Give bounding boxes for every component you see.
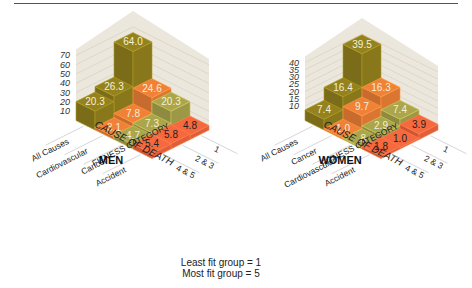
z-tick-label: 70: [60, 50, 70, 60]
value-label: 39.5: [352, 39, 372, 50]
chart-title: MEN: [99, 154, 124, 166]
fitness-label: 1: [213, 144, 222, 155]
value-label: 20.3: [85, 96, 105, 107]
z-tick-label: 10: [60, 106, 70, 116]
fitness-label: 4 & 5: [175, 163, 197, 181]
fitness-label: 2 & 3: [423, 153, 445, 171]
value-label: 26.3: [104, 81, 124, 92]
legend-least-fit: Least fit group = 1: [0, 257, 472, 268]
chart-women: 1015202530354039.516.416.37.49.77.41.02.…: [259, 18, 467, 190]
fitness-mortality-charts: 1020304050607064.026.324.620.37.820.33.1…: [0, 0, 472, 288]
value-label: 7.4: [317, 104, 331, 115]
z-tick-label: 20: [59, 97, 70, 107]
legend: Least fit group = 1 Most fit group = 5: [0, 257, 472, 279]
chart-men: 1020304050607064.026.324.620.37.820.33.1…: [30, 11, 238, 188]
legend-most-fit: Most fit group = 5: [0, 268, 472, 279]
value-label: 16.3: [371, 82, 391, 93]
fitness-label: 2 & 3: [194, 153, 216, 171]
z-tick-label: 30: [60, 88, 70, 98]
value-label: 9.7: [355, 101, 369, 112]
value-label: 16.4: [333, 82, 353, 93]
fitness-label: 1: [442, 144, 451, 155]
fitness-label: 4 & 5: [404, 163, 426, 181]
value-label: 7.4: [393, 104, 407, 115]
value-label: 7.8: [126, 108, 140, 119]
chart-title: WOMEN: [318, 154, 361, 166]
value-label: 3.9: [412, 119, 426, 130]
value-label: 1.0: [393, 133, 407, 144]
z-tick-label: 60: [60, 60, 70, 70]
value-label: 64.0: [123, 36, 143, 47]
z-tick-label: 40: [60, 78, 70, 88]
value-label: 24.6: [142, 83, 162, 94]
z-tick-label: 50: [60, 69, 70, 79]
z-tick-label: 40: [289, 58, 299, 68]
value-label: 4.8: [183, 120, 197, 131]
value-label: 20.3: [161, 96, 181, 107]
